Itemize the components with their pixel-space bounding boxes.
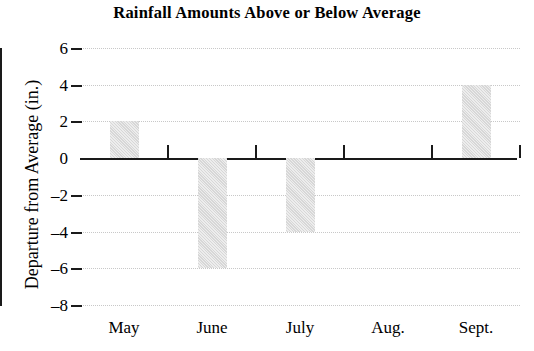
bar-june xyxy=(198,158,227,268)
gridline xyxy=(80,305,520,306)
y-axis-tick xyxy=(71,85,82,87)
x-axis-tick xyxy=(431,145,433,158)
y-axis-tick-label: –2 xyxy=(28,186,68,203)
gridline xyxy=(80,121,520,122)
x-axis-tick xyxy=(519,145,521,158)
y-axis-tick xyxy=(71,48,82,50)
x-axis-tick xyxy=(255,145,257,158)
y-axis-tick xyxy=(71,121,82,123)
gridline xyxy=(80,232,520,233)
x-axis-tick-label: July xyxy=(286,319,314,336)
x-axis-tick-label: May xyxy=(108,319,139,336)
x-axis-tick xyxy=(167,145,169,158)
chart-title: Rainfall Amounts Above or Below Average xyxy=(0,3,534,23)
y-axis-tick-label: 0 xyxy=(28,150,68,167)
plot-area xyxy=(80,48,520,305)
gridline xyxy=(80,48,520,49)
y-axis-tick-label: 6 xyxy=(28,40,68,57)
y-axis-tick xyxy=(71,305,82,307)
gridline xyxy=(80,268,520,269)
y-axis-tick xyxy=(71,232,82,234)
y-axis-tick xyxy=(71,268,82,270)
y-axis-tick-label: –4 xyxy=(28,223,68,240)
bar-july xyxy=(286,158,315,231)
y-axis-tick-label: –6 xyxy=(28,260,68,277)
x-axis-tick-label: Aug. xyxy=(371,319,405,336)
x-axis-tick-label: Sept. xyxy=(459,319,493,336)
x-axis-tick-label: June xyxy=(196,319,227,336)
y-axis-spine xyxy=(0,48,2,306)
y-axis-tick-label: –8 xyxy=(28,297,68,314)
bar-sept xyxy=(462,85,491,158)
gridline xyxy=(80,85,520,86)
bar-may xyxy=(110,121,139,158)
y-axis-tick-label: 2 xyxy=(28,113,68,130)
y-axis-tick xyxy=(71,195,82,197)
y-axis-tick-label: 4 xyxy=(28,76,68,93)
x-axis-tick xyxy=(343,145,345,158)
